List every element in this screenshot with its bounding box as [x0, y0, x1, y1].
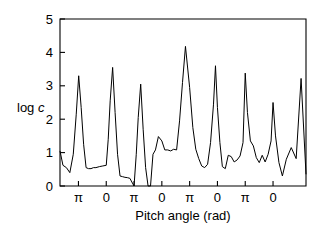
y-axis-tick-labels: 012345 [46, 12, 53, 194]
y-tick-label: 0 [46, 179, 53, 194]
x-axis-tick-labels: π0π0π0π0 [74, 190, 277, 205]
y-tick-label: 5 [46, 12, 53, 27]
y-tick-label: 4 [46, 45, 53, 60]
x-tick-label: π [74, 190, 83, 205]
y-tick-label: 1 [46, 145, 53, 160]
data-series-line [60, 46, 306, 186]
x-tick-label: 0 [214, 190, 221, 205]
y-tick-label: 2 [46, 112, 53, 127]
x-tick-label: 0 [103, 190, 110, 205]
data-series-group [60, 46, 306, 186]
plot-frame [60, 19, 306, 186]
x-tick-label: π [130, 190, 139, 205]
x-tick-label: π [185, 190, 194, 205]
x-axis-label: Pitch angle (rad) [135, 208, 230, 223]
y-axis-label-prefix: log [17, 100, 38, 115]
y-axis-label-italic: c [38, 100, 45, 115]
x-tick-label: 0 [158, 190, 165, 205]
y-tick-label: 3 [46, 78, 53, 93]
figure-container: 012345 π0π0π0π0 log c Pitch angle (rad) [0, 0, 321, 228]
x-tick-label: 0 [269, 190, 276, 205]
chart-plot: 012345 π0π0π0π0 log c Pitch angle (rad) [0, 0, 321, 228]
y-axis-label: log c [17, 100, 45, 115]
x-tick-label: π [241, 190, 250, 205]
x-axis-ticks [78, 181, 273, 186]
